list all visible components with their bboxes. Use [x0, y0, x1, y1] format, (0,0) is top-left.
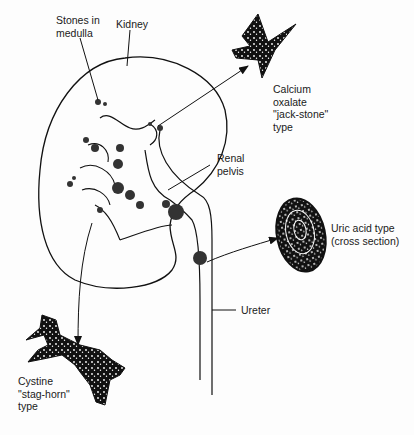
kidney-stones-diagram: Stones in medulla Kidney Calcium oxalate… [0, 0, 414, 435]
label-cystine: Cystine "stag-horn" type [18, 375, 70, 413]
diagram-drawing [0, 0, 414, 435]
label-kidney: Kidney [116, 18, 148, 31]
calcium-oxalate-stone [232, 14, 296, 78]
medulla-speckle [67, 99, 207, 265]
uric-acid-stone [270, 194, 332, 276]
label-uric-acid: Uric acid type (cross section) [331, 222, 399, 247]
label-calcium-oxalate: Calcium oxalate "jack-stone" type [273, 83, 328, 133]
label-ureter: Ureter [241, 304, 270, 317]
label-renal-pelvis: Renal pelvis [217, 152, 244, 177]
label-stones-in-medulla: Stones in medulla [56, 14, 100, 39]
